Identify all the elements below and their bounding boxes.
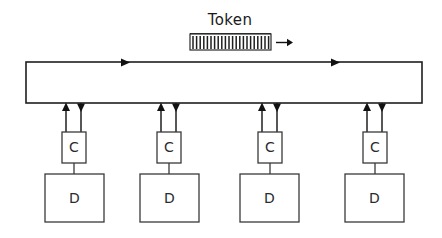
station-4-controller-label: C	[370, 139, 380, 155]
token-ring-diagram: Token	[0, 0, 442, 238]
station-2-controller-label: C	[164, 139, 174, 155]
token-packet	[190, 33, 293, 50]
diagram-canvas: Token	[0, 0, 442, 238]
station-1-downlink-arrow-icon	[77, 104, 85, 113]
station-2-device-label: D	[164, 190, 175, 206]
station-3-downlink-arrow-icon	[273, 104, 281, 113]
station-3-controller-label: C	[265, 139, 275, 155]
station-3: C D	[240, 103, 299, 223]
station-4-downlink-arrow-icon	[378, 104, 386, 113]
station-1: C D	[45, 103, 104, 223]
station-1-controller-label: C	[69, 139, 79, 155]
station-3-device-label: D	[264, 190, 275, 206]
station-2: C D	[140, 103, 199, 223]
ring-flow-arrow-2-icon	[331, 58, 340, 66]
ring-flow-arrow-1-icon	[121, 58, 130, 66]
token-label: Token	[207, 11, 253, 29]
station-2-downlink-arrow-icon	[172, 104, 180, 113]
token-direction-right-arrow-icon	[276, 39, 293, 46]
station-4: C D	[345, 103, 404, 223]
token-frame	[190, 34, 271, 50]
station-1-device-label: D	[69, 190, 80, 206]
ring-bus	[26, 62, 422, 103]
station-4-device-label: D	[369, 190, 380, 206]
